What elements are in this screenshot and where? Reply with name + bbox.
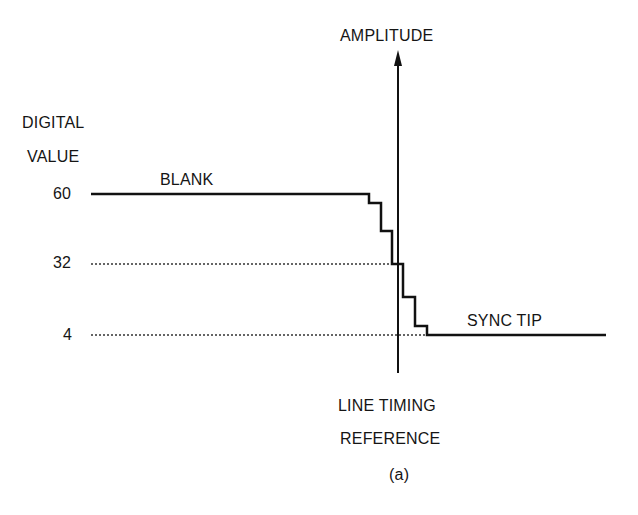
sync-tip-label: SYNC TIP bbox=[467, 312, 542, 330]
blank-label: BLANK bbox=[160, 171, 213, 189]
caption-label: (a) bbox=[389, 466, 409, 484]
tick-label-4: 4 bbox=[63, 326, 72, 344]
reference-label: REFERENCE bbox=[340, 430, 440, 448]
tick-label-60: 60 bbox=[53, 185, 71, 203]
digital-label: DIGITAL bbox=[22, 114, 84, 132]
amplitude-label: AMPLITUDE bbox=[340, 27, 433, 45]
tick-label-32: 32 bbox=[53, 254, 71, 272]
value-label: VALUE bbox=[27, 148, 79, 166]
line-timing-label: LINE TIMING bbox=[338, 397, 436, 415]
axis-arrow-icon bbox=[394, 50, 402, 66]
waveform-diagram bbox=[0, 0, 638, 515]
